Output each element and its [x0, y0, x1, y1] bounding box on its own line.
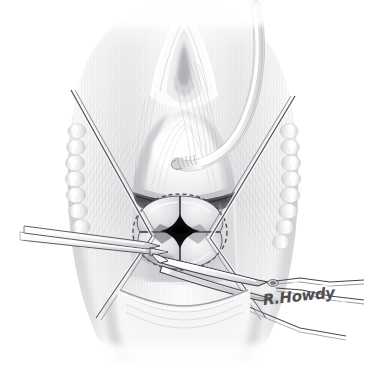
surgical-illustration-figure: Cruciate incision of the cricothyroid me… — [0, 0, 366, 365]
illustration-canvas — [0, 0, 366, 365]
